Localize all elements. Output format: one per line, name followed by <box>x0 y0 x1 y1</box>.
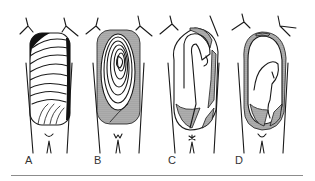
bottom-rule <box>11 175 303 176</box>
panel-b-drawing <box>86 16 152 153</box>
illustration <box>0 0 315 181</box>
panel-label-b: B <box>94 155 101 166</box>
panel-label-d: D <box>235 155 243 166</box>
panel-d-drawing <box>232 14 296 153</box>
figure: A B C D <box>0 0 315 181</box>
panel-label-a: A <box>25 155 32 166</box>
panel-c-drawing <box>160 16 219 153</box>
panel-a-drawing <box>20 18 78 153</box>
panel-label-c: C <box>168 155 176 166</box>
